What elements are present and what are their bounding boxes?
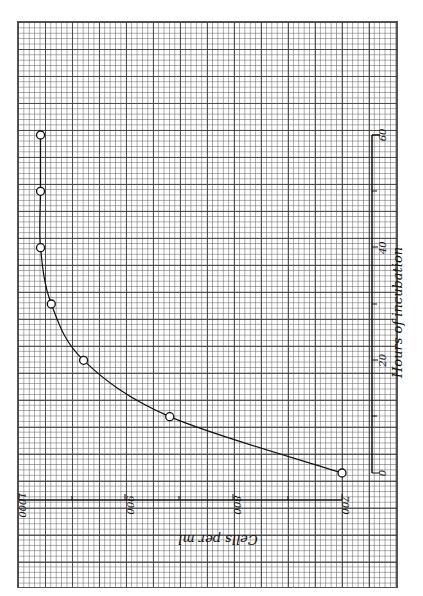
y-axis: 7008009001000 Cells per ml xyxy=(17,492,351,547)
data-point xyxy=(37,131,45,139)
data-point xyxy=(166,413,174,421)
x-tick-label: 20 xyxy=(377,353,388,367)
data-point xyxy=(47,300,55,308)
y-tick-label: 900 xyxy=(125,495,136,515)
y-tick-label: 800 xyxy=(232,495,243,515)
x-tick-label: 0 xyxy=(377,469,388,476)
y-axis-label: Cells per ml xyxy=(178,532,258,547)
y-tick-label: 700 xyxy=(340,495,351,515)
x-axis-label: Hours of incubation xyxy=(390,247,405,379)
x-tick-label: 40 xyxy=(377,241,388,255)
data-point xyxy=(80,356,88,364)
data-point xyxy=(37,244,45,252)
data-point xyxy=(37,187,45,195)
x-axis: 0204060 Hours of incubation xyxy=(372,128,405,476)
chart: 0204060 Hours of incubation 700800900100… xyxy=(0,0,423,596)
data-point xyxy=(338,469,346,477)
y-tick-label: 1000 xyxy=(17,492,28,518)
data-curve xyxy=(40,135,342,473)
x-tick-label: 60 xyxy=(377,128,388,141)
